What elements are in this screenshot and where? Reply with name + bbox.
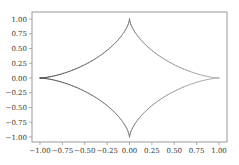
curve-segment: [170, 63, 173, 65]
curve-segment: [79, 88, 82, 90]
curve-segment: [98, 55, 101, 57]
y-tick-label: 0.00: [11, 75, 27, 83]
curve-segment: [101, 53, 104, 55]
curve-segment: [158, 55, 161, 57]
curve-segment: [79, 66, 82, 68]
curve-segment: [174, 64, 177, 66]
curve-segment: [104, 103, 107, 105]
curve-segment: [155, 101, 158, 103]
curve-segment: [183, 69, 186, 70]
curve-segment: [167, 61, 170, 63]
curve-segment: [89, 93, 92, 95]
curve-segment: [69, 85, 72, 86]
curve-segment: [180, 87, 183, 88]
curve-segment: [72, 69, 75, 70]
x-tick-label: 1.00: [211, 147, 227, 155]
x-tick-label: 0.00: [122, 147, 138, 155]
y-tick-label: −0.25: [6, 89, 27, 97]
curve-segment: [177, 88, 180, 90]
curve-segment: [95, 57, 98, 59]
curve-segment: [153, 103, 156, 105]
x-tick-label: −1.00: [29, 147, 50, 155]
curve-segment: [187, 70, 190, 71]
x-tick-label: −0.50: [74, 147, 95, 155]
curve-segment: [161, 57, 164, 59]
y-axis: −1.00−0.75−0.50−0.250.000.250.500.751.00: [6, 16, 32, 142]
y-tick-label: 0.50: [11, 45, 27, 53]
curve-segment: [153, 51, 156, 53]
curve-segment: [89, 61, 92, 63]
astroid-chart: −1.00−0.75−0.50−0.250.000.250.500.751.00…: [0, 0, 239, 165]
curve-segment: [76, 68, 79, 69]
curve-segment: [85, 63, 88, 65]
curve-segment: [92, 95, 95, 97]
x-axis: −1.00−0.75−0.50−0.250.000.250.500.751.00: [29, 142, 227, 155]
y-tick-label: 1.00: [11, 16, 27, 24]
x-tick-label: 0.75: [189, 147, 205, 155]
curve-segment: [82, 64, 85, 66]
axes-frame: [32, 12, 227, 142]
x-tick-label: 0.50: [166, 147, 182, 155]
curve-segment: [170, 92, 173, 94]
curve-segment: [76, 87, 79, 88]
y-tick-label: 0.75: [11, 30, 27, 38]
x-tick-label: −0.75: [52, 147, 73, 155]
curve-segment: [158, 99, 161, 101]
curve-segment: [164, 95, 167, 97]
curve-segment: [187, 85, 190, 86]
curve-segment: [85, 92, 88, 94]
y-tick-label: −1.00: [6, 134, 27, 142]
curve-segment: [98, 99, 101, 101]
x-tick-label: −0.25: [96, 147, 117, 155]
curve-segment: [180, 68, 183, 69]
y-tick-label: −0.50: [6, 104, 27, 112]
curve-segment: [161, 97, 164, 99]
curve-segment: [82, 90, 85, 92]
astroid-curve: [40, 19, 219, 137]
y-tick-label: −0.75: [6, 119, 27, 127]
curve-segment: [95, 97, 98, 99]
curve-segment: [104, 51, 107, 53]
curve-segment: [174, 90, 177, 92]
curve-segment: [72, 86, 75, 87]
curve-segment: [167, 93, 170, 95]
curve-segment: [164, 59, 167, 61]
curve-segment: [183, 86, 186, 87]
y-tick-label: 0.25: [11, 60, 27, 68]
curve-segment: [69, 70, 72, 71]
curve-segment: [155, 53, 158, 55]
curve-segment: [177, 66, 180, 68]
x-tick-label: 0.25: [144, 147, 160, 155]
curve-segment: [101, 101, 104, 103]
curve-segment: [92, 59, 95, 61]
